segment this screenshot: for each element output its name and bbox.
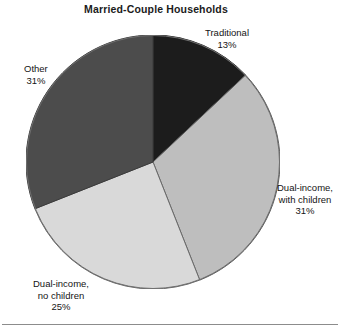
pie-label-other: Other 31% [24,63,48,86]
pie-label-dual-with-name-line2: with children [277,194,333,206]
pie-label-traditional-name: Traditional [205,27,249,39]
pie-label-dual-income-with-children: Dual-income, with children 31% [277,182,333,217]
bottom-divider [2,324,338,325]
pie-label-dual-with-name-line1: Dual-income, [277,182,333,194]
pie-chart-area [26,35,280,289]
pie-label-traditional: Traditional 13% [205,27,249,50]
pie-label-dual-with-value: 31% [277,205,333,217]
pie-label-dual-no-name-line1: Dual-income, [33,278,89,290]
pie-label-dual-no-name-line2: no children [33,290,89,302]
pie-label-other-name: Other [24,63,48,75]
pie-label-other-value: 31% [24,75,48,87]
chart-title: Married-Couple Households [0,3,312,15]
pie-label-dual-no-value: 25% [33,301,89,313]
pie-label-dual-income-no-children: Dual-income, no children 25% [33,278,89,313]
pie-slices [26,35,280,289]
pie-label-traditional-value: 13% [205,39,249,51]
pie-chart-figure: Married-Couple Households Traditional 13… [0,0,356,332]
pie-svg [26,35,280,289]
